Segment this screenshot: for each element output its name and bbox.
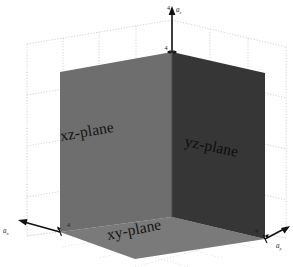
axis-y-label: ay — [276, 242, 283, 251]
axis-z: 4 az 4 — [164, 4, 181, 54]
xz-plane-panel — [60, 52, 172, 232]
coordinate-planes-figure: 4 az 4 4 ax 4 — [0, 0, 293, 267]
axis-x-label: ax — [3, 227, 10, 236]
figure-container: 4 az 4 4 ax 4 — [0, 0, 293, 267]
axis-z-upper-tick-label: 4 — [167, 4, 170, 11]
axis-z-label: az — [176, 6, 182, 15]
axis-z-tick-label: 4 — [164, 44, 167, 51]
axis-y-tick-label: 4 — [255, 227, 258, 234]
axis-x-tick-label: 4 — [67, 221, 70, 228]
